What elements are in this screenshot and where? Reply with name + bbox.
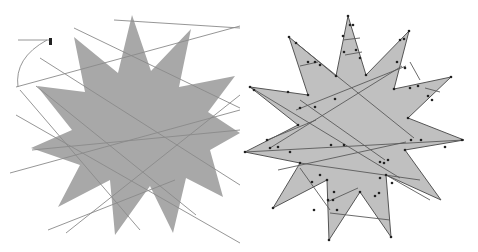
vertex-marker xyxy=(403,38,406,41)
vertex-marker xyxy=(277,146,280,149)
left-star-polygon xyxy=(31,15,240,235)
vertex-marker xyxy=(420,139,423,142)
vertex-marker xyxy=(374,195,377,198)
vertex-marker xyxy=(347,15,350,18)
vertex-marker xyxy=(327,199,330,202)
vertex-marker xyxy=(359,191,362,194)
vertex-marker xyxy=(390,236,393,239)
right-panel-clipped xyxy=(244,15,464,242)
vertex-marker xyxy=(332,199,335,202)
vertex-marker xyxy=(299,107,302,110)
vertex-marker xyxy=(288,36,291,39)
vertex-marker xyxy=(379,177,382,180)
vertex-marker xyxy=(326,179,329,182)
vertex-marker xyxy=(444,146,447,149)
vertex-marker xyxy=(319,64,322,67)
vertex-marker xyxy=(407,117,410,120)
vertex-marker xyxy=(408,30,411,33)
vertex-marker xyxy=(387,159,390,162)
vertex-marker xyxy=(287,91,290,94)
vertex-marker xyxy=(253,89,256,92)
vertex-marker xyxy=(378,192,381,195)
vertex-marker xyxy=(266,139,269,142)
vertex-marker xyxy=(383,162,386,165)
vertex-marker xyxy=(343,144,346,147)
vertex-marker xyxy=(336,209,339,212)
vertex-marker xyxy=(249,86,252,89)
right-star-polygon xyxy=(245,16,464,240)
vertex-marker xyxy=(342,35,345,38)
vertex-marker xyxy=(417,85,420,88)
vertex-marker xyxy=(385,174,388,177)
vertex-marker xyxy=(409,87,412,90)
vertex-marker xyxy=(314,106,317,109)
diagram-canvas xyxy=(0,0,478,252)
vertex-marker xyxy=(355,49,358,52)
vertex-marker xyxy=(333,191,336,194)
vertex-marker xyxy=(307,94,310,97)
vertex-marker xyxy=(379,161,382,164)
vertex-marker xyxy=(311,181,314,184)
vertex-marker xyxy=(335,75,338,78)
vertex-marker xyxy=(328,239,331,242)
vertex-marker xyxy=(299,162,302,165)
vertex-marker xyxy=(244,151,247,154)
vertex-marker xyxy=(272,207,275,210)
vertex-marker xyxy=(319,174,322,177)
vertex-marker xyxy=(334,98,337,101)
vertex-marker xyxy=(313,209,316,212)
vertex-marker xyxy=(330,144,333,147)
vertex-marker xyxy=(365,74,368,77)
vertex-marker xyxy=(289,151,292,154)
vertex-marker xyxy=(404,67,407,70)
vertex-marker xyxy=(307,61,310,64)
vertex-marker xyxy=(410,139,413,142)
clipped-segment xyxy=(410,62,420,80)
vertex-marker xyxy=(359,57,362,60)
vertex-marker xyxy=(295,42,298,45)
cursor-icon xyxy=(49,38,52,45)
vertex-marker xyxy=(396,61,399,64)
vertex-marker xyxy=(314,61,317,64)
vertex-marker xyxy=(427,95,430,98)
vertex-marker xyxy=(349,24,352,27)
vertex-marker xyxy=(399,39,402,42)
vertex-marker xyxy=(391,182,394,185)
vertex-marker xyxy=(431,99,434,102)
left-panel-unclipped xyxy=(10,15,240,243)
vertex-marker xyxy=(269,147,272,150)
vertex-marker xyxy=(352,24,355,27)
vertex-marker xyxy=(393,88,396,91)
vertex-marker xyxy=(450,76,453,79)
vertex-marker xyxy=(461,139,464,142)
vertex-marker xyxy=(297,124,300,127)
vertex-marker xyxy=(343,51,346,54)
vertex-marker xyxy=(404,149,407,152)
